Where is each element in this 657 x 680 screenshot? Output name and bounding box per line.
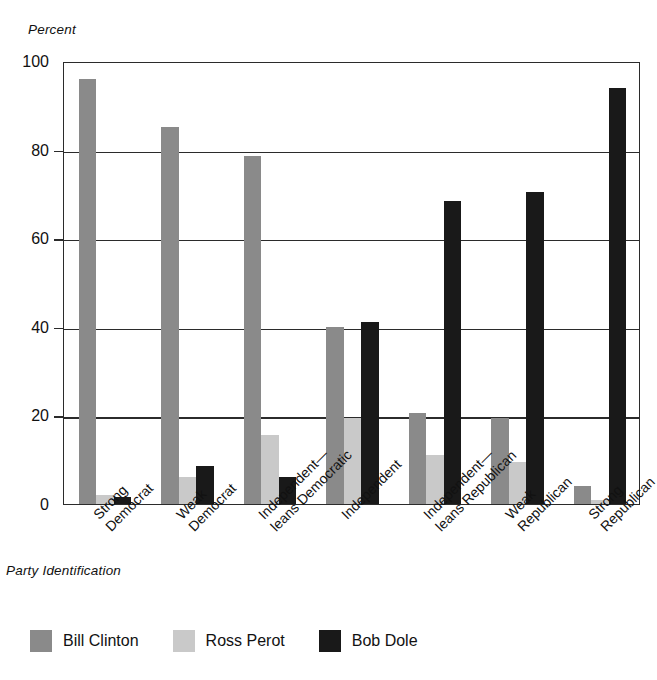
y-tick-label-20: 20 — [1, 407, 49, 425]
legend-item-bill-clinton[interactable]: Bill Clinton — [30, 630, 139, 652]
y-tick-label-80: 80 — [1, 142, 49, 160]
legend-item-ross-perot[interactable]: Ross Perot — [173, 630, 285, 652]
legend-swatch-icon — [173, 630, 195, 652]
y-tick-label-60: 60 — [1, 230, 49, 248]
bar-bob-dole-4 — [444, 201, 462, 504]
y-tick-label-40: 40 — [1, 319, 49, 337]
plot-area — [63, 62, 640, 505]
x-axis-category-labels: Strong DemocratWeak DemocratIndependent—… — [0, 505, 657, 615]
bars-layer — [64, 63, 639, 504]
legend-swatch-icon — [319, 630, 341, 652]
legend-swatch-icon — [30, 630, 52, 652]
y-tick-mark-20 — [54, 416, 63, 417]
legend-label: Ross Perot — [206, 632, 285, 650]
legend: Bill ClintonRoss PerotBob Dole — [30, 630, 452, 652]
legend-label: Bob Dole — [352, 632, 418, 650]
bar-bill-clinton-6 — [574, 486, 592, 504]
y-axis-title: Percent — [28, 22, 76, 37]
bar-bill-clinton-0 — [79, 79, 97, 504]
bar-bill-clinton-4 — [409, 413, 427, 504]
y-tick-mark-40 — [54, 328, 63, 329]
y-tick-mark-80 — [54, 151, 63, 152]
bar-bob-dole-5 — [526, 192, 544, 504]
bar-bill-clinton-2 — [244, 156, 262, 504]
y-tick-mark-60 — [54, 239, 63, 240]
legend-label: Bill Clinton — [63, 632, 139, 650]
y-tick-label-100: 100 — [1, 53, 49, 71]
bar-bill-clinton-1 — [161, 127, 179, 504]
x-axis-title: Party Identification — [6, 563, 121, 578]
bar-bob-dole-6 — [609, 88, 627, 504]
legend-item-bob-dole[interactable]: Bob Dole — [319, 630, 418, 652]
y-axis-ticks: 020406080100 — [0, 62, 63, 505]
